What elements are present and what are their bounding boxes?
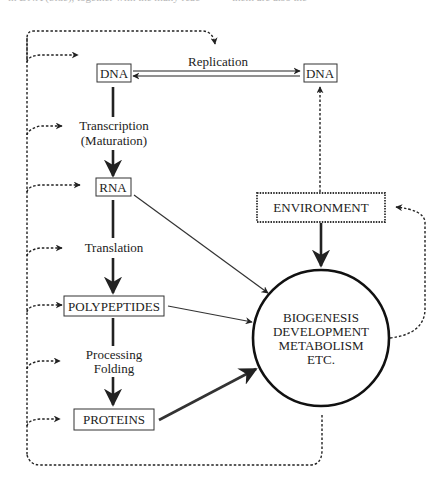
dotted-to-processing (27, 361, 60, 369)
dotted-to-translation (27, 248, 62, 256)
node-dna-right: DNA (304, 64, 337, 82)
label-processing: Processing (86, 347, 143, 362)
dotted-to-polypeptides (27, 305, 62, 312)
replication-arrows (133, 71, 300, 76)
node-polypeptides-label: POLYPEPTIDES (68, 299, 160, 314)
dotted-to-transcription (27, 126, 62, 135)
label-folding: Folding (94, 361, 135, 376)
node-proteins: PROTEINS (74, 409, 154, 430)
node-rna: RNA (96, 178, 131, 196)
node-rna-label: RNA (99, 180, 127, 195)
label-replication: Replication (188, 54, 248, 69)
node-polypeptides: POLYPEPTIDES (64, 296, 164, 316)
dotted-to-rna (27, 185, 80, 192)
circle-line-2: DEVELOPMENT (273, 324, 369, 339)
flow-diagram: Replication DNA DNA Transcription (Matur… (0, 0, 442, 481)
circle-line-1: BIOGENESIS (283, 310, 359, 325)
dotted-to-dna (27, 55, 78, 62)
dotted-bottom-return (27, 413, 322, 465)
dotted-top-arc (27, 31, 215, 60)
node-environment: ENVIRONMENT (257, 193, 385, 222)
node-environment-label: ENVIRONMENT (273, 200, 368, 215)
node-dna-left-label: DNA (100, 66, 129, 81)
node-biogenesis-circle: BIOGENESIS DEVELOPMENT METABOLISM ETC. (253, 270, 389, 406)
node-proteins-label: PROTEINS (83, 412, 145, 427)
circle-line-3: METABOLISM (279, 338, 364, 353)
dotted-to-proteins (27, 419, 60, 426)
node-dna-left: DNA (97, 64, 131, 82)
label-maturation: (Maturation) (81, 133, 147, 148)
label-translation: Translation (85, 240, 144, 255)
feedback-loop-left (27, 31, 322, 465)
node-dna-right-label: DNA (306, 66, 335, 81)
circle-line-4: ETC. (307, 352, 335, 367)
dotted-circle-to-environment (390, 207, 425, 338)
label-transcription: Transcription (79, 118, 149, 133)
